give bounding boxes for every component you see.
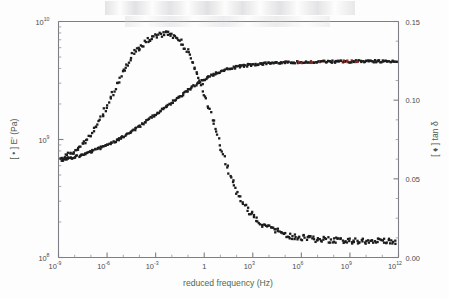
data-point (202, 90, 204, 92)
data-point (130, 59, 132, 61)
data-point (67, 152, 69, 154)
data-point (255, 216, 257, 218)
data-point (172, 102, 174, 104)
data-point (160, 110, 162, 112)
data-point (277, 228, 279, 230)
data-point (261, 226, 263, 228)
data-point (128, 62, 130, 64)
data-point (231, 68, 233, 70)
data-point (103, 107, 105, 109)
data-point (298, 236, 300, 238)
data-point (124, 69, 126, 71)
data-point (66, 154, 68, 156)
data-point (94, 148, 96, 150)
x-tick-label: 103 (244, 260, 255, 270)
data-point (265, 63, 267, 65)
data-point (170, 33, 172, 35)
figure-panel: 10-910-610-31103106109101210810910100.00… (0, 0, 449, 299)
data-point (224, 155, 226, 157)
y-right-tick-label: 0.10 (406, 96, 420, 105)
data-point (275, 228, 277, 230)
data-point (302, 234, 304, 236)
data-point (339, 238, 341, 240)
data-point (69, 152, 71, 154)
data-point (232, 179, 234, 181)
data-point (161, 36, 163, 38)
data-point (362, 238, 364, 240)
data-point (197, 77, 199, 79)
data-point (331, 59, 333, 61)
x-tick-label: 106 (292, 260, 303, 270)
data-point (184, 48, 186, 50)
data-point (373, 61, 375, 63)
data-point (224, 163, 226, 165)
data-point (294, 233, 296, 235)
x-tick-label: 10-6 (97, 260, 110, 270)
data-point (353, 60, 355, 62)
data-point (239, 200, 241, 202)
data-point (218, 137, 220, 139)
data-point (79, 145, 81, 147)
data-point (376, 241, 378, 243)
data-point (392, 241, 394, 243)
data-point (348, 240, 350, 242)
x-tick-label: 1012 (388, 260, 402, 270)
data-point (361, 240, 363, 242)
data-point (394, 240, 396, 242)
data-point (96, 123, 98, 125)
data-point (383, 238, 385, 240)
data-point (172, 99, 174, 101)
data-point (167, 31, 169, 33)
data-point (99, 115, 101, 117)
data-point (313, 62, 315, 64)
data-point (89, 135, 91, 137)
data-point (288, 61, 290, 63)
data-point (259, 223, 261, 225)
x-tick-label: 10-3 (146, 260, 159, 270)
data-point (106, 107, 108, 109)
data-point (196, 73, 198, 75)
data-point (386, 241, 388, 243)
data-point (275, 61, 277, 63)
data-point (396, 61, 398, 63)
x-tick-label: 10-9 (49, 260, 62, 270)
data-point (67, 156, 69, 158)
data-point (115, 141, 117, 143)
data-point (378, 59, 380, 61)
data-point (73, 151, 75, 153)
y-right-tick-label: 0.15 (406, 18, 420, 27)
data-point (102, 115, 104, 117)
data-point (210, 111, 212, 113)
data-point (294, 62, 296, 64)
x-tick-label: 1 (202, 262, 206, 271)
data-point (82, 142, 84, 144)
data-point (245, 204, 247, 206)
data-point (365, 60, 367, 62)
data-point (346, 241, 348, 243)
data-point (388, 239, 390, 241)
data-point (193, 68, 195, 70)
data-point (187, 48, 189, 50)
data-point (221, 150, 223, 152)
series-e-prime-points (61, 59, 398, 162)
data-point (93, 130, 95, 132)
data-point (135, 50, 137, 52)
data-point (301, 239, 303, 241)
data-point (138, 48, 140, 50)
data-point (213, 123, 215, 125)
data-point (331, 62, 333, 64)
data-point (227, 165, 229, 167)
data-point (133, 53, 135, 55)
data-point (130, 57, 132, 59)
data-point (215, 130, 217, 132)
data-point (144, 121, 146, 123)
data-point (349, 237, 351, 239)
data-point (236, 65, 238, 67)
data-point (309, 235, 311, 237)
data-point (227, 172, 229, 174)
data-point (142, 45, 144, 47)
data-point (65, 157, 67, 159)
data-point (162, 31, 164, 33)
y-axis-right-label: [ ♦ ] tan δ (430, 121, 440, 157)
data-point (110, 142, 112, 144)
